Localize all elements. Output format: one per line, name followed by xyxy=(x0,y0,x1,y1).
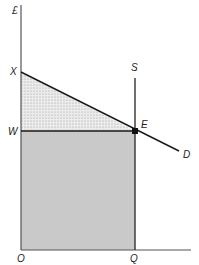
q-label: Q xyxy=(130,253,138,264)
d-label: D xyxy=(183,149,190,160)
s-label: S xyxy=(131,62,138,73)
origin-label: O xyxy=(17,253,25,264)
earnings-rectangle xyxy=(21,131,135,250)
surplus-diagram: £ X W E S D O Q xyxy=(0,0,199,265)
w-label: W xyxy=(8,126,19,137)
equilibrium-point xyxy=(132,128,138,134)
x-label: X xyxy=(9,66,17,77)
y-axis-label: £ xyxy=(11,5,18,16)
e-label: E xyxy=(141,119,148,130)
